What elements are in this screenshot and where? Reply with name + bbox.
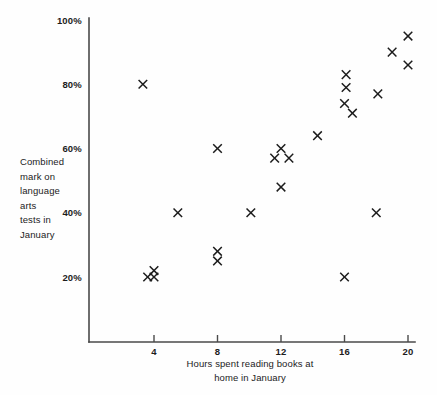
y-tick-label-20%: 20% bbox=[62, 272, 82, 283]
y-axis-title-line: mark on bbox=[20, 171, 55, 182]
y-tick-label-40%: 40% bbox=[62, 207, 82, 218]
data-point bbox=[313, 131, 322, 140]
data-point bbox=[277, 144, 286, 153]
y-axis-title-line: Combined bbox=[20, 156, 64, 167]
data-point bbox=[388, 48, 397, 57]
data-point bbox=[404, 61, 413, 70]
data-point bbox=[139, 80, 148, 89]
x-axis-title-line: home in January bbox=[214, 372, 286, 383]
y-axis-title-line: language bbox=[20, 185, 60, 196]
y-axis-title-line: arts bbox=[20, 200, 36, 211]
data-point bbox=[404, 32, 413, 41]
plot-svg: 4812162020%40%60%80%100%Combinedmark onl… bbox=[0, 0, 437, 395]
data-point bbox=[150, 273, 159, 282]
data-point bbox=[374, 90, 383, 99]
data-point bbox=[372, 208, 381, 217]
data-point bbox=[247, 208, 256, 217]
x-tick-label-4: 4 bbox=[151, 346, 157, 357]
data-point bbox=[340, 99, 349, 108]
y-tick-label-60%: 60% bbox=[62, 143, 82, 154]
y-tick-label-80%: 80% bbox=[62, 79, 82, 90]
x-tick-label-16: 16 bbox=[339, 346, 350, 357]
data-point bbox=[270, 154, 279, 163]
data-point bbox=[348, 109, 357, 118]
x-tick-label-12: 12 bbox=[276, 346, 287, 357]
data-point bbox=[340, 273, 349, 282]
data-point bbox=[213, 247, 222, 256]
x-axis-title-line: Hours spent reading books at bbox=[187, 358, 314, 369]
data-points-group bbox=[139, 32, 413, 282]
y-tick-label-100%: 100% bbox=[57, 15, 82, 26]
data-point bbox=[342, 70, 351, 79]
y-axis-title-line: tests in bbox=[20, 214, 51, 225]
data-point bbox=[174, 208, 183, 217]
y-axis-title-line: January bbox=[20, 229, 55, 240]
x-tick-label-8: 8 bbox=[215, 346, 220, 357]
data-point bbox=[277, 183, 286, 192]
x-tick-label-20: 20 bbox=[403, 346, 414, 357]
data-point bbox=[285, 154, 294, 163]
data-point bbox=[213, 257, 222, 266]
data-point bbox=[213, 144, 222, 153]
data-point bbox=[342, 83, 351, 92]
scatter-plot-figure: 4812162020%40%60%80%100%Combinedmark onl… bbox=[0, 0, 437, 395]
